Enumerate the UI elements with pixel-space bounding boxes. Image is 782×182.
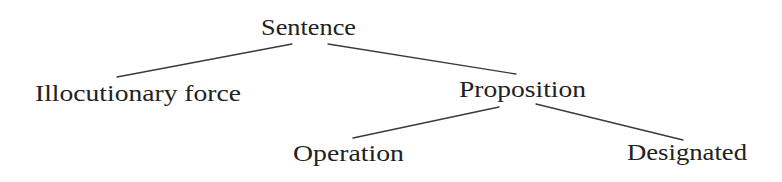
node-designated: Designated — [627, 140, 748, 165]
edge-sentence-illocutionary-force — [117, 44, 292, 77]
edge-sentence-proposition — [328, 44, 516, 74]
edge-proposition-operation — [353, 107, 499, 138]
node-sentence: Sentence — [261, 15, 356, 40]
tree-diagram: Sentence Illocutionary force Proposition… — [0, 0, 782, 182]
node-illocutionary-force: Illocutionary force — [35, 81, 241, 106]
node-operation: Operation — [293, 141, 405, 166]
tree-diagram-svg: Sentence Illocutionary force Proposition… — [0, 0, 782, 182]
node-proposition: Proposition — [459, 77, 587, 102]
edge-proposition-designated — [536, 104, 683, 140]
